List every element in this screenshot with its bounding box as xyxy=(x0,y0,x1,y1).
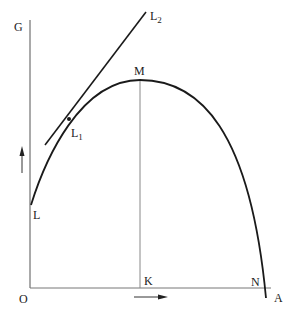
label-m: M xyxy=(134,64,145,78)
label-a: A xyxy=(274,291,283,305)
diagram-canvas: G O K N A M L L1 L2 xyxy=(0,0,299,317)
label-l: L xyxy=(33,208,40,222)
label-l1: L1 xyxy=(71,126,83,142)
label-l2: L2 xyxy=(150,9,162,25)
point-l1 xyxy=(67,117,71,121)
label-n: N xyxy=(251,275,260,289)
label-g: G xyxy=(14,20,23,34)
tangent-line-l1-l2 xyxy=(45,12,146,145)
right-arrow-icon xyxy=(134,295,168,300)
curve-lma xyxy=(31,80,266,298)
label-k: K xyxy=(144,274,153,288)
label-o: O xyxy=(19,292,28,306)
up-arrow-icon xyxy=(20,146,25,173)
